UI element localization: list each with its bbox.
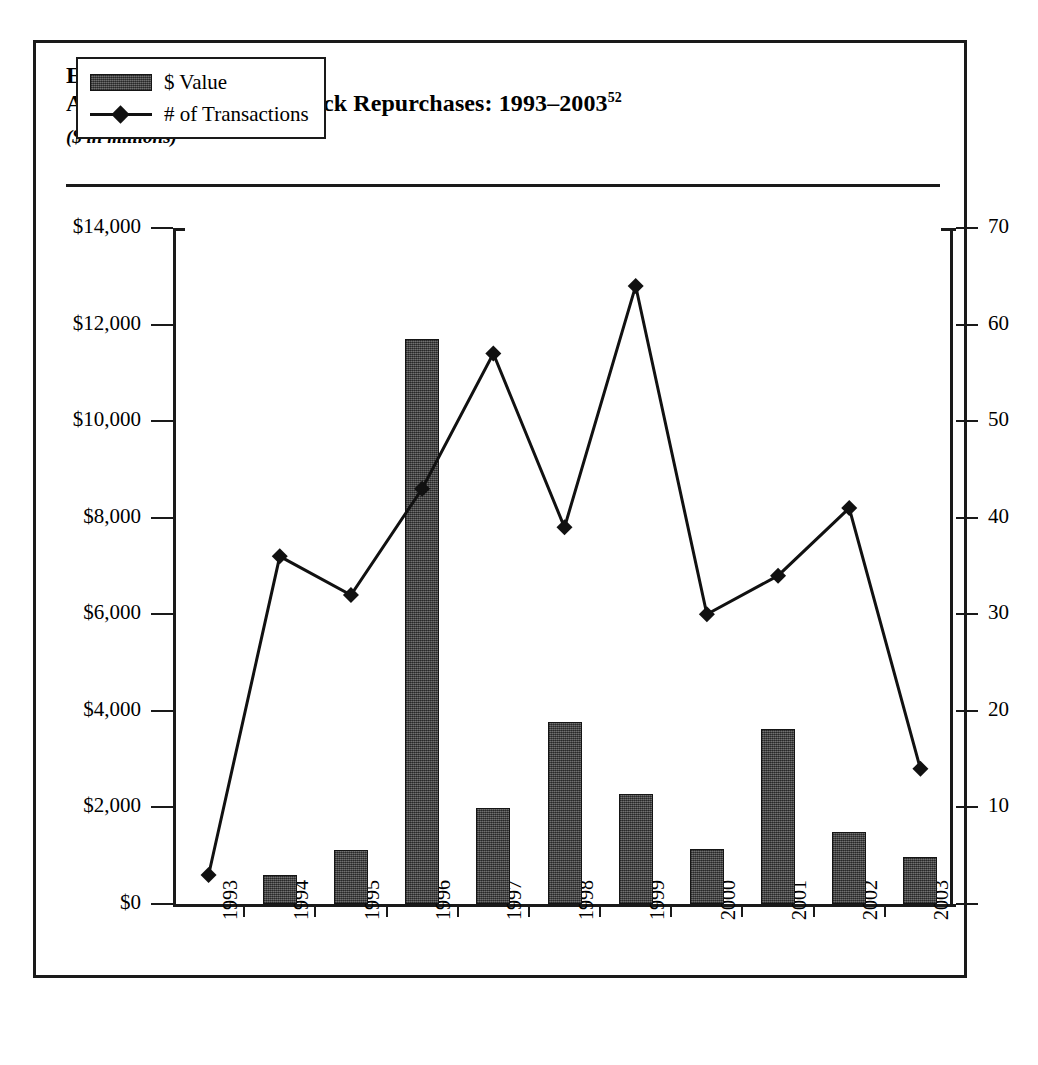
y-axis-left-tick — [151, 903, 173, 905]
transactions-line — [209, 286, 921, 875]
y-axis-right-label: 40 — [988, 504, 1009, 529]
legend-item-transactions: # of Transactions — [90, 99, 309, 129]
x-axis-tick — [670, 906, 672, 917]
x-axis-tick — [386, 906, 388, 917]
line-series — [173, 228, 956, 907]
y-axis-left-tick — [151, 227, 173, 229]
line-marker — [343, 587, 359, 603]
exhibit-frame: Exhibit 19-22 Announced Targeted Block R… — [33, 40, 967, 978]
y-axis-right-label: 10 — [988, 793, 1009, 818]
x-axis-tick — [884, 906, 886, 917]
y-axis-right-tick — [956, 806, 978, 808]
y-axis-left-tick — [151, 710, 173, 712]
line-marker — [699, 606, 715, 622]
y-axis-left-tick — [151, 613, 173, 615]
legend-line-marker-icon — [90, 106, 152, 123]
y-axis-right-tick — [956, 324, 978, 326]
y-axis-right-label: 50 — [988, 407, 1009, 432]
line-marker — [557, 519, 573, 535]
legend-bar-swatch-icon — [90, 74, 152, 91]
x-axis-tick — [528, 906, 530, 917]
exhibit-page: Exhibit 19-22 Announced Targeted Block R… — [0, 0, 1038, 1065]
x-axis-tick — [599, 906, 601, 917]
x-axis-tick — [243, 906, 245, 917]
legend-bar-label: $ Value — [164, 70, 227, 95]
y-axis-right-label: 30 — [988, 600, 1009, 625]
y-axis-left-tick — [151, 806, 173, 808]
y-axis-left-label: $12,000 — [36, 311, 141, 336]
line-marker — [628, 278, 644, 294]
y-axis-right-tick — [956, 517, 978, 519]
y-axis-right-tick — [956, 420, 978, 422]
y-axis-left-tick — [151, 517, 173, 519]
legend-line-label: # of Transactions — [164, 102, 309, 127]
chart-plot: $0$2,000$4,000$6,000$8,000$10,000$12,000… — [36, 43, 970, 981]
y-axis-left-label: $8,000 — [36, 504, 141, 529]
y-axis-left-label: $6,000 — [36, 600, 141, 625]
legend-item-value: $ Value — [90, 67, 227, 97]
line-marker — [201, 867, 217, 883]
y-axis-right-label: 70 — [988, 214, 1009, 239]
line-marker — [912, 761, 928, 777]
chart-legend: $ Value # of Transactions — [76, 57, 326, 139]
y-axis-right-tick — [956, 903, 978, 905]
y-axis-right-label: 20 — [988, 697, 1009, 722]
y-axis-left-tick — [151, 324, 173, 326]
x-axis-tick — [314, 906, 316, 917]
x-axis-tick — [457, 906, 459, 917]
y-axis-left-label: $0 — [36, 890, 141, 915]
y-axis-right-tick — [956, 613, 978, 615]
y-axis-left-label: $10,000 — [36, 407, 141, 432]
line-marker — [272, 548, 288, 564]
line-marker — [485, 346, 501, 362]
y-axis-right-label: 60 — [988, 311, 1009, 336]
line-marker — [414, 481, 430, 497]
y-axis-left-label: $2,000 — [36, 793, 141, 818]
y-axis-left-label: $4,000 — [36, 697, 141, 722]
y-axis-right-tick — [956, 710, 978, 712]
transactions-markers — [201, 278, 929, 883]
x-axis-tick — [741, 906, 743, 917]
y-axis-right-tick — [956, 227, 978, 229]
x-axis-tick — [813, 906, 815, 917]
y-axis-left-tick — [151, 420, 173, 422]
y-axis-left-label: $14,000 — [36, 214, 141, 239]
